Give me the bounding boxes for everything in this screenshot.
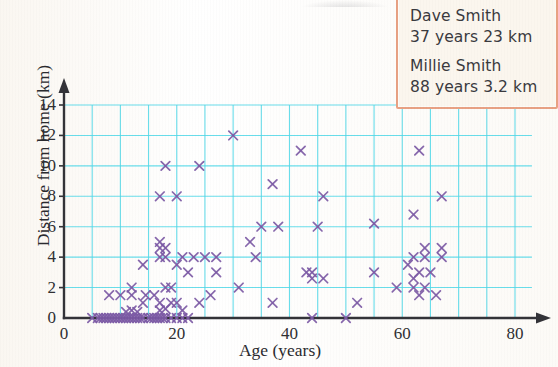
x-tick-label: 40 xyxy=(270,324,310,344)
y-tick-label: 12 xyxy=(22,125,56,145)
callout-person-name: Millie Smith xyxy=(410,56,546,77)
data-point xyxy=(268,180,277,189)
y-tick-label: 8 xyxy=(22,186,56,206)
data-point xyxy=(156,238,165,247)
data-point xyxy=(421,244,430,253)
y-tick-label: 10 xyxy=(22,156,56,176)
data-point xyxy=(206,291,215,300)
callout-entry-2: Millie Smith 88 years 3.2 km xyxy=(410,56,546,97)
data-point xyxy=(150,291,159,300)
x-tick-label: 0 xyxy=(44,324,84,344)
data-point xyxy=(139,298,148,307)
data-point xyxy=(415,146,424,155)
data-point xyxy=(437,244,446,253)
data-point xyxy=(415,291,424,300)
callout-entry-1: Dave Smith 37 years 23 km xyxy=(410,6,546,47)
data-point xyxy=(246,238,255,247)
data-point xyxy=(195,298,204,307)
annotation-callout-box: Dave Smith 37 years 23 km Millie Smith 8… xyxy=(396,0,558,109)
callout-person-detail: 37 years 23 km xyxy=(410,27,546,48)
data-point xyxy=(409,210,418,219)
data-point xyxy=(268,298,277,307)
data-point xyxy=(178,306,187,315)
data-point xyxy=(156,298,165,307)
data-point xyxy=(296,146,305,155)
data-point xyxy=(212,268,221,277)
data-point xyxy=(184,268,193,277)
data-point xyxy=(127,291,136,300)
callout-person-detail: 88 years 3.2 km xyxy=(410,77,546,98)
data-point xyxy=(105,291,114,300)
data-point xyxy=(432,291,441,300)
data-point xyxy=(139,260,148,269)
x-tick-label: 20 xyxy=(157,324,197,344)
x-tick-label: 60 xyxy=(382,324,422,344)
y-tick-label: 6 xyxy=(22,217,56,237)
x-tick-label: 80 xyxy=(495,324,535,344)
data-point xyxy=(415,268,424,277)
data-point xyxy=(404,260,413,269)
data-point xyxy=(308,268,317,277)
callout-person-name: Dave Smith xyxy=(410,6,546,27)
y-tick-label: 2 xyxy=(22,278,56,298)
y-tick-label: 4 xyxy=(22,247,56,267)
data-point xyxy=(319,274,328,283)
data-point xyxy=(353,298,362,307)
y-tick-label: 14 xyxy=(22,95,56,115)
